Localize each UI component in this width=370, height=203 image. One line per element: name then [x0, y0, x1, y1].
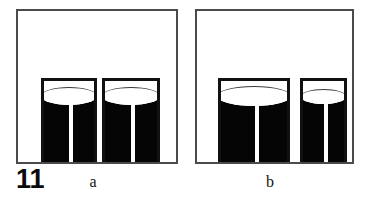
glass-a-right [102, 78, 160, 162]
panel-b-caption: b [255, 174, 285, 190]
glass-a-left [41, 78, 97, 162]
straw-a-right [131, 98, 135, 162]
figure-number: 11 [16, 166, 45, 193]
straw-b-right [324, 98, 328, 162]
panel-a [16, 9, 178, 164]
straw-a-left [69, 98, 73, 162]
meniscus-outline-b-left [218, 86, 290, 106]
straw-b-left [255, 98, 259, 162]
panel-b [195, 9, 354, 164]
panel-a-caption: a [78, 174, 108, 190]
glass-b-left [218, 78, 290, 162]
glass-b-right [300, 78, 347, 162]
figure-container: a b 11 [0, 0, 370, 203]
